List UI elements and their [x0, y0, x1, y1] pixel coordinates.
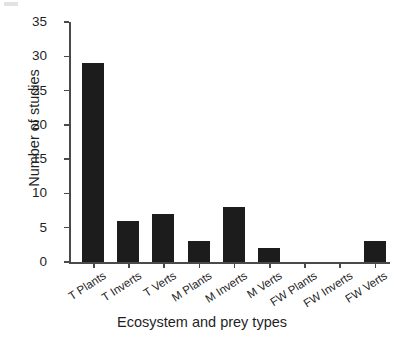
y-axis-tick	[64, 90, 69, 92]
y-axis-tick-label: 0	[7, 255, 47, 269]
x-axis-tick	[269, 263, 271, 268]
x-axis-tick	[375, 263, 377, 268]
y-axis-tick	[64, 56, 69, 58]
y-axis-tick	[64, 21, 69, 23]
bar	[82, 63, 104, 262]
x-axis-tick	[339, 263, 341, 268]
x-axis-tick	[199, 263, 201, 268]
y-axis-tick	[64, 158, 69, 160]
plot-area: 05101520253035	[69, 22, 390, 262]
x-axis-tick	[163, 263, 165, 268]
y-axis-tick	[64, 227, 69, 229]
y-axis-title: Number of studies	[26, 8, 42, 248]
y-axis-tick	[64, 193, 69, 195]
bar	[223, 207, 245, 262]
x-axis-tick-label: T Inverts	[100, 270, 144, 304]
y-axis-tick	[64, 124, 69, 126]
scan-artifact	[4, 2, 18, 6]
x-axis-title: Ecosystem and prey types	[0, 314, 404, 330]
x-axis-tick	[93, 263, 95, 268]
bar	[117, 221, 139, 262]
x-axis-line	[69, 262, 390, 264]
y-axis-tick	[64, 261, 69, 263]
bar	[152, 214, 174, 262]
bar	[258, 248, 280, 262]
x-axis-tick	[128, 263, 130, 268]
bar	[188, 241, 210, 262]
x-axis-tick	[234, 263, 236, 268]
x-axis-tick	[304, 263, 306, 268]
bar-chart: 05101520253035 T PlantsT InvertsT VertsM…	[0, 0, 404, 338]
bar	[364, 241, 386, 262]
